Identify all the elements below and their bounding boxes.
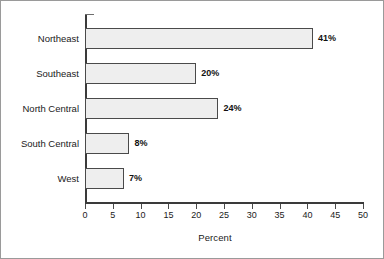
bar — [85, 168, 124, 189]
bar-value-label: 8% — [134, 133, 147, 154]
bar-value-label: 41% — [318, 28, 336, 49]
bar — [85, 98, 218, 119]
bar — [85, 28, 313, 49]
value-axis-tick-label: 15 — [163, 210, 173, 221]
value-axis-tick-label: 30 — [247, 210, 257, 221]
value-axis-tick — [335, 204, 336, 209]
value-axis-tick-label: 50 — [358, 210, 368, 221]
value-axis-tick-label: 0 — [82, 210, 87, 221]
bar — [85, 63, 196, 84]
value-axis-tick — [113, 204, 114, 209]
plot-area: 05101520253035404550 Northeast41%Southea… — [1, 1, 383, 258]
value-axis-tick-label: 45 — [330, 210, 340, 221]
value-axis-tick-label: 40 — [302, 210, 312, 221]
category-label: Southeast — [1, 63, 79, 84]
value-axis-tick — [280, 204, 281, 209]
category-axis-top-cap — [85, 14, 94, 15]
value-axis-tick — [224, 204, 225, 209]
value-axis-tick — [196, 204, 197, 209]
category-label: West — [1, 168, 79, 189]
value-axis-tick-label: 20 — [191, 210, 201, 221]
category-label: Northeast — [1, 28, 79, 49]
value-axis-tick-label: 35 — [275, 210, 285, 221]
value-axis-tick — [141, 204, 142, 209]
bar — [85, 133, 129, 154]
value-axis-tick — [168, 204, 169, 209]
bar-value-label: 7% — [129, 168, 142, 189]
value-axis-title: Percent — [1, 232, 384, 243]
bar-chart-figure: 05101520253035404550 Northeast41%Southea… — [0, 0, 384, 259]
value-axis-tick — [363, 204, 364, 209]
value-axis-tick — [307, 204, 308, 209]
category-label: South Central — [1, 133, 79, 154]
value-axis-tick — [252, 204, 253, 209]
value-axis-tick-label: 10 — [136, 210, 146, 221]
category-label: North Central — [1, 98, 79, 119]
value-axis-tick-label: 5 — [110, 210, 115, 221]
bar-value-label: 20% — [201, 63, 219, 84]
value-axis-title-text: Percent — [198, 232, 231, 243]
value-axis-tick — [85, 204, 86, 209]
bar-value-label: 24% — [223, 98, 241, 119]
value-axis-tick-label: 25 — [219, 210, 229, 221]
